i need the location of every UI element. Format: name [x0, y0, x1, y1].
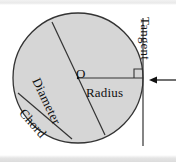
radius-label: Radius: [86, 86, 123, 99]
tangent-label: Tangent: [139, 17, 152, 60]
center-point-label: O: [76, 67, 86, 80]
pointer-arrow-head: [149, 77, 157, 84]
figure-canvas: Diameter Chord Radius O Tangent: [0, 0, 176, 162]
